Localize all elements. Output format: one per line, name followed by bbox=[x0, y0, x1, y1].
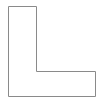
diagram-canvas bbox=[0, 0, 100, 103]
l-shape-outline bbox=[9, 7, 96, 97]
